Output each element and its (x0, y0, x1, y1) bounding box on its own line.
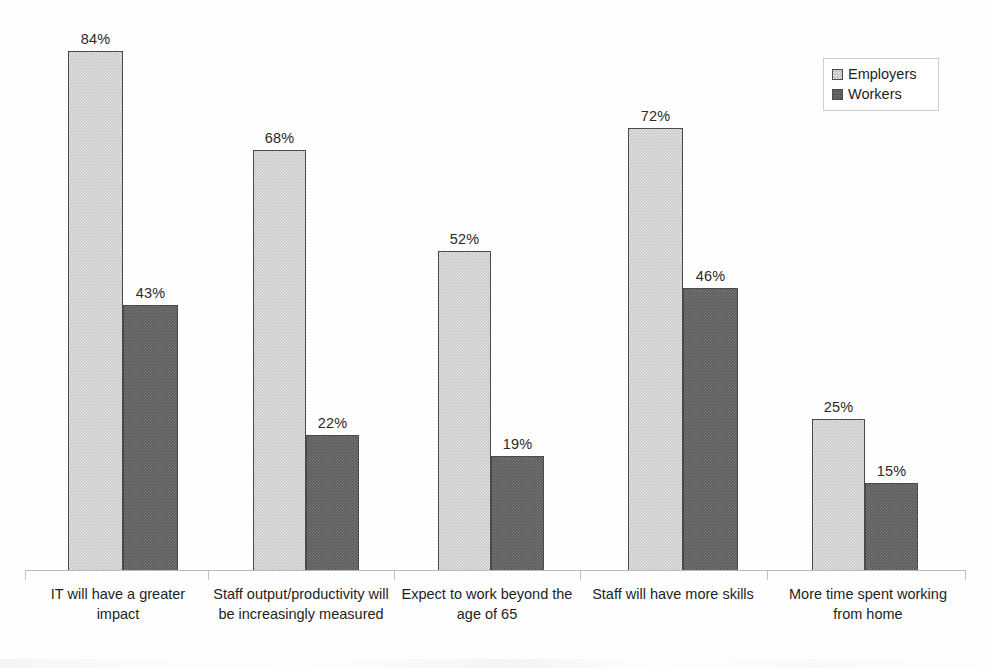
employers-swatch-icon (832, 69, 843, 80)
bar-group-2: 68% 22% (253, 10, 408, 571)
category-label-5: More time spent working from home (778, 584, 958, 624)
bar-employers-2[interactable] (253, 150, 306, 571)
data-label-employers-2: 68% (253, 130, 306, 146)
bar-employers-1[interactable] (68, 51, 123, 571)
axis-tick-1 (208, 571, 209, 580)
bar-workers-1[interactable] (123, 305, 178, 571)
bar-employers-4[interactable] (628, 128, 683, 571)
bar-workers-4[interactable] (683, 288, 738, 571)
axis-tick-3 (580, 571, 581, 580)
category-label-2: Staff output/productivity will be increa… (211, 584, 391, 624)
axis-tick-2 (394, 571, 395, 580)
category-label-4: Staff will have more skills (580, 584, 766, 604)
axis-tick-5 (965, 571, 966, 580)
data-label-workers-2: 22% (306, 415, 359, 431)
legend-label-employers: Employers (848, 66, 917, 82)
category-axis-line (25, 570, 966, 571)
bar-group-3: 52% 19% (438, 10, 593, 571)
legend-entry-employers[interactable]: Employers (832, 64, 931, 84)
bar-employers-5[interactable] (812, 419, 865, 571)
bar-group-4: 72% 46% (628, 10, 783, 571)
scan-artifact (0, 659, 992, 668)
legend-label-workers: Workers (848, 86, 902, 102)
data-label-employers-3: 52% (438, 231, 491, 247)
bar-chart: 84% 43% 68% 22% 52% 19% 72% 46% (0, 0, 992, 668)
bar-group-1: 84% 43% (68, 10, 223, 571)
data-label-employers-1: 84% (68, 31, 123, 47)
data-label-workers-1: 43% (123, 285, 178, 301)
axis-tick-4 (767, 571, 768, 580)
axis-tick-0 (25, 571, 26, 580)
workers-swatch-icon (832, 89, 843, 100)
bar-workers-5[interactable] (865, 483, 918, 571)
data-label-workers-4: 46% (683, 268, 738, 284)
data-label-employers-4: 72% (628, 108, 683, 124)
data-label-employers-5: 25% (812, 399, 865, 415)
legend-entry-workers[interactable]: Workers (832, 84, 931, 104)
data-label-workers-5: 15% (865, 463, 918, 479)
bar-employers-3[interactable] (438, 251, 491, 571)
category-label-1: IT will have a greater impact (33, 584, 203, 624)
bar-workers-2[interactable] (306, 435, 359, 571)
category-label-3: Expect to work beyond the age of 65 (398, 584, 576, 624)
legend: Employers Workers (823, 58, 939, 111)
bar-workers-3[interactable] (491, 456, 544, 571)
data-label-workers-3: 19% (491, 436, 544, 452)
